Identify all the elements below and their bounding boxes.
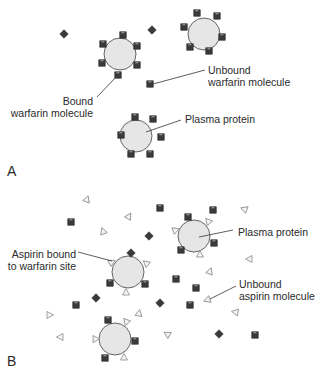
- label-bound-warfarin: Bound warfarin molecule: [11, 95, 93, 119]
- label-aspirin-bound: Aspirin bound to warfarin site: [8, 248, 76, 272]
- warfarin-square-icon: [173, 276, 179, 282]
- warfarin-square-icon: [148, 26, 156, 34]
- bound-warfarin-icon: [142, 281, 148, 287]
- label-plasma-protein-a: Plasma protein: [185, 113, 255, 125]
- warfarin-square-icon: [210, 207, 216, 213]
- aspirin-triangle-icon: [240, 205, 249, 214]
- bound-warfarin-icon: [187, 44, 193, 50]
- label-line: Aspirin bound: [8, 248, 76, 260]
- bound-warfarin-icon: [147, 151, 153, 157]
- protein-circle-icon: [120, 120, 152, 152]
- bound-warfarin-icon: [128, 151, 134, 157]
- bound-warfarin-icon: [118, 132, 124, 138]
- plasma-protein-b1: [107, 249, 151, 295]
- panel-letter-a: A: [7, 163, 16, 179]
- plasma-protein-a3: [118, 114, 164, 157]
- bound-warfarin-icon: [211, 240, 217, 246]
- aspirin-triangle-icon: [124, 211, 133, 220]
- bound-warfarin-icon: [185, 214, 191, 220]
- aspirin-triangle-icon: [135, 309, 143, 317]
- bound-warfarin-icon: [219, 34, 225, 40]
- bound-warfarin-icon: [102, 355, 108, 361]
- label-line: Bound: [11, 95, 93, 107]
- warfarin-square-icon: [92, 294, 100, 302]
- warfarin-square-icon: [145, 232, 153, 240]
- panel-a: [60, 10, 225, 157]
- warfarin-square-icon: [68, 219, 74, 225]
- bound-aspirin-icon: [121, 316, 131, 325]
- warfarin-square-icon: [60, 30, 68, 38]
- bound-warfarin-icon: [158, 134, 164, 140]
- bound-warfarin-icon: [214, 13, 220, 19]
- label-line: Unbound: [208, 64, 290, 76]
- protein-circle-icon: [112, 256, 144, 288]
- bound-warfarin-icon: [181, 24, 187, 30]
- warfarin-square-icon: [193, 285, 199, 291]
- bound-warfarin-icon: [134, 62, 140, 68]
- aspirin-triangle-icon: [57, 334, 64, 341]
- aspirin-triangle-icon: [206, 267, 215, 276]
- label-line: aspirin molecule: [239, 290, 315, 302]
- bound-warfarin-icon: [194, 10, 200, 16]
- protein-circle-icon: [104, 38, 136, 70]
- label-line: warfarin molecule: [208, 76, 290, 88]
- label-unbound-aspirin: Unbound aspirin molecule: [239, 278, 315, 302]
- warfarin-square-icon: [215, 330, 223, 338]
- leader-line-unbound-aspirin: [210, 286, 236, 299]
- plasma-protein-b3: [93, 316, 138, 361]
- aspirin-triangle-icon: [246, 256, 253, 263]
- bound-warfarin-icon: [132, 338, 138, 344]
- leader-line-bound-warfarin: [97, 76, 117, 97]
- label-plasma-protein-b: Plasma protein: [238, 226, 308, 238]
- protein-circle-icon: [99, 323, 131, 355]
- warfarin-square-icon: [187, 302, 193, 308]
- bound-warfarin-icon: [206, 48, 212, 54]
- aspirin-triangle-icon: [231, 308, 239, 316]
- warfarin-square-icon: [147, 81, 153, 87]
- aspirin-triangle-icon: [203, 296, 212, 305]
- plasma-protein-a2: [181, 10, 225, 54]
- panel-b: [47, 195, 258, 362]
- aspirin-triangle-icon: [99, 227, 108, 236]
- warfarin-square-icon: [252, 332, 258, 338]
- label-unbound-warfarin: Unbound warfarin molecule: [208, 64, 290, 88]
- bound-warfarin-icon: [99, 60, 105, 66]
- bound-aspirin-icon: [121, 354, 128, 361]
- warfarin-square-icon: [157, 205, 163, 211]
- free-aspirin-molecules: [47, 195, 252, 341]
- leader-line-aspirin-bound: [78, 252, 112, 261]
- bound-warfarin-icon: [178, 247, 184, 253]
- bound-aspirin-icon: [123, 289, 130, 296]
- bound-warfarin-icon: [150, 116, 156, 122]
- bound-warfarin-icon: [132, 114, 138, 120]
- leader-line-unbound-warfarin: [153, 70, 205, 84]
- plasma-protein-a1: [99, 32, 140, 78]
- label-line: to warfarin site: [8, 260, 76, 272]
- bound-warfarin-icon: [105, 317, 111, 323]
- aspirin-triangle-icon: [47, 312, 54, 319]
- aspirin-triangle-icon: [83, 195, 92, 204]
- warfarin-square-icon: [156, 299, 164, 307]
- aspirin-triangle-icon: [162, 329, 171, 338]
- bound-warfarin-icon: [134, 43, 140, 49]
- diagram-canvas: [0, 0, 318, 372]
- bound-warfarin-icon: [100, 41, 106, 47]
- panel-letter-b: B: [7, 353, 16, 369]
- plasma-protein-b2: [172, 214, 217, 257]
- free-warfarin-molecules-b: [68, 205, 258, 338]
- label-line: warfarin molecule: [11, 107, 93, 119]
- drug-binding-diagram: Unbound warfarin molecule Bound warfarin…: [0, 0, 318, 372]
- bound-warfarin-icon: [107, 280, 113, 286]
- warfarin-square-icon: [73, 302, 79, 308]
- bound-warfarin-icon: [120, 32, 126, 38]
- bound-aspirin-icon: [93, 336, 100, 343]
- label-line: Unbound: [239, 278, 315, 290]
